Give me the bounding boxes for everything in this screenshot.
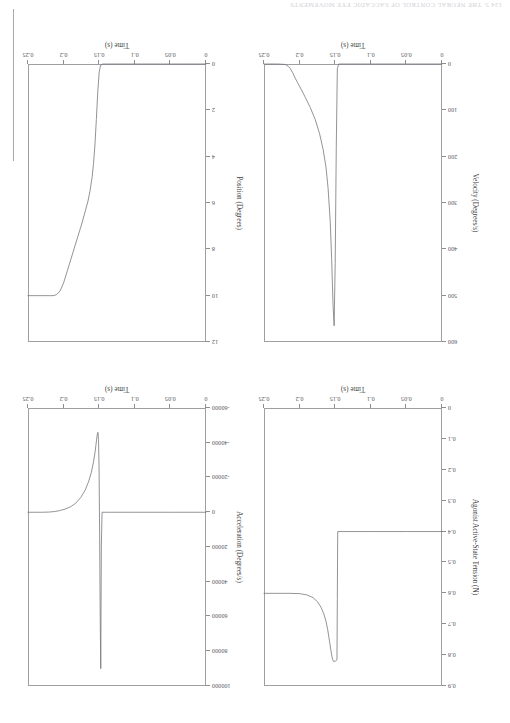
data-series-velocity [264,64,442,326]
data-series-agonist-tension [264,532,442,662]
chart-panel-position: 00.050.10.150.20.25024681012Time (s)Posi… [20,34,252,352]
series-layer-agonist-tension [256,378,488,696]
series-layer-acceleration [20,378,252,696]
chart-panel-velocity: 00.050.10.150.20.250100200300400500600Ti… [256,34,488,352]
chart-panel-acceleration: 00.050.10.150.20.25-60000-40000-20000020… [20,378,252,696]
data-series-position [28,64,206,296]
figure-rotated-container: 00.050.10.150.20.2500.10.20.30.40.50.60.… [0,8,510,720]
series-layer-position [20,34,252,352]
data-series-acceleration [28,432,206,668]
series-layer-velocity [256,34,488,352]
chart-panel-agonist-tension: 00.050.10.150.20.2500.10.20.30.40.50.60.… [256,378,488,696]
figure-panel-grid: 00.050.10.150.20.2500.10.20.30.40.50.60.… [0,8,510,720]
